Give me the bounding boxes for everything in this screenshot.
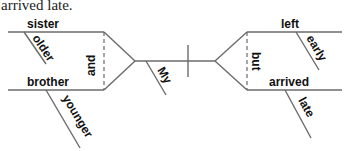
- word-left: left: [281, 17, 299, 31]
- fork-lower-right: [215, 61, 247, 90]
- word-brother: brother: [27, 75, 69, 89]
- fork-upper-left: [104, 32, 135, 61]
- word-my: My: [154, 65, 175, 87]
- word-early: early: [303, 32, 330, 64]
- sentence-diagram: sister brother left arrived older younge…: [0, 0, 348, 151]
- word-and: and: [84, 55, 98, 76]
- word-younger: younger: [59, 92, 96, 140]
- word-but: but: [249, 52, 263, 71]
- fork-lower-left: [104, 61, 135, 90]
- word-sister: sister: [27, 17, 59, 31]
- word-older: older: [30, 32, 58, 64]
- word-arrived: arrived: [269, 75, 309, 89]
- fork-upper-right: [215, 32, 247, 61]
